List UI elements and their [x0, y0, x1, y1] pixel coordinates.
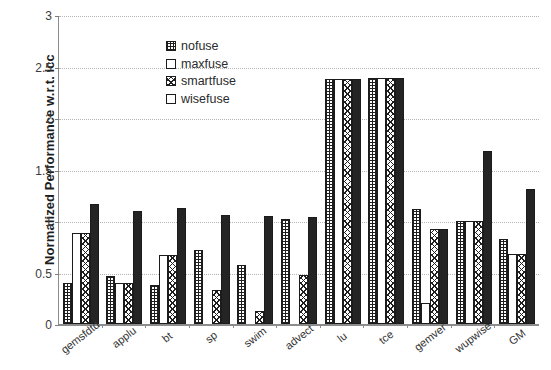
- x-label-cell: applu: [102, 325, 146, 370]
- x-tick-label-advect: advect: [282, 322, 315, 351]
- x-tick-label-bt: bt: [160, 329, 175, 344]
- bar-nofuse-wupwise: [456, 221, 465, 324]
- x-tick-label-swim: swim: [241, 325, 268, 350]
- bar-groups: [59, 16, 539, 324]
- x-label-cell: sp: [189, 325, 233, 370]
- bar-group-advect: [277, 16, 321, 324]
- bar-wisefuse-gemsfdtd: [90, 204, 99, 325]
- x-label-cell: bt: [145, 325, 189, 370]
- legend-item-maxfuse: maxfuse: [166, 58, 236, 71]
- bar-group-wupwise: [452, 16, 496, 324]
- y-axis-tick-labels: 00.511.522.53: [22, 0, 52, 370]
- bar-group-gemver: [408, 16, 452, 324]
- bar-wisefuse-bt: [177, 208, 186, 324]
- x-label-cell: lu: [320, 325, 364, 370]
- bar-smartfuse-advect: [299, 275, 308, 324]
- bar-wisefuse-gm: [526, 189, 535, 324]
- y-tick-label: 1: [26, 215, 52, 229]
- x-tick-label-wupwise: wupwise: [453, 319, 494, 354]
- y-tick-label: 0: [26, 318, 52, 332]
- bar-maxfuse-bt: [159, 255, 168, 324]
- y-tick-label: 0.5: [26, 267, 52, 281]
- bar-maxfuse-gemver: [421, 303, 430, 324]
- legend-item-wisefuse: wisefuse: [166, 93, 236, 106]
- bar-nofuse-advect: [281, 219, 290, 324]
- x-label-cell: advect: [277, 325, 321, 370]
- bar-smartfuse-gemver: [430, 229, 439, 324]
- bar-smartfuse-gm: [517, 254, 526, 324]
- bar-maxfuse-applu: [115, 283, 124, 324]
- legend-item-nofuse: nofuse: [166, 40, 236, 53]
- x-tick-label-lu: lu: [335, 330, 349, 345]
- legend-label-maxfuse: maxfuse: [181, 58, 228, 71]
- bar-maxfuse-tce: [377, 78, 386, 324]
- bar-wisefuse-applu: [133, 211, 142, 324]
- bar-smartfuse-applu: [124, 283, 133, 324]
- bar-group-tce: [364, 16, 408, 324]
- plot-area: nofusemaxfusesmartfusewisefuse: [58, 16, 539, 325]
- bar-smartfuse-wupwise: [474, 221, 483, 324]
- bar-wisefuse-wupwise: [483, 151, 492, 324]
- bar-group-lu: [321, 16, 365, 324]
- bar-maxfuse-lu: [334, 79, 343, 324]
- bar-wisefuse-sp: [221, 215, 230, 324]
- bar-group-applu: [103, 16, 147, 324]
- y-tick-label: 2: [26, 112, 52, 126]
- legend: nofusemaxfusesmartfusewisefuse: [166, 40, 236, 105]
- bar-nofuse-bt: [150, 285, 159, 324]
- x-label-cell: gemver: [408, 325, 452, 370]
- legend-item-smartfuse: smartfuse: [166, 75, 236, 88]
- bar-maxfuse-wupwise: [465, 221, 474, 324]
- y-tick-label: 3: [26, 9, 52, 23]
- bar-nofuse-applu: [106, 276, 115, 324]
- x-tick-label-gm: GM: [507, 327, 528, 347]
- bar-smartfuse-swim: [255, 311, 264, 324]
- bar-smartfuse-tce: [386, 78, 395, 324]
- x-label-cell: tce: [364, 325, 408, 370]
- bar-nofuse-gemver: [412, 209, 421, 324]
- x-label-cell: swim: [233, 325, 277, 370]
- x-tick-label-gemver: gemver: [412, 321, 448, 353]
- bar-maxfuse-gm: [508, 254, 517, 324]
- legend-swatch-nofuse: [166, 41, 176, 51]
- legend-label-wisefuse: wisefuse: [181, 93, 230, 106]
- bar-maxfuse-gemsfdtd: [72, 233, 81, 324]
- x-label-cell: GM: [495, 325, 539, 370]
- bar-wisefuse-gemver: [439, 229, 448, 324]
- y-tick-label: 2.5: [26, 61, 52, 75]
- bar-nofuse-tce: [368, 78, 377, 324]
- bar-group-swim: [234, 16, 278, 324]
- bar-wisefuse-advect: [308, 217, 317, 324]
- bar-smartfuse-bt: [168, 255, 177, 324]
- bar-nofuse-gm: [499, 239, 508, 324]
- x-label-cell: wupwise: [452, 325, 496, 370]
- bar-wisefuse-lu: [352, 79, 361, 324]
- bar-group-gemsfdtd: [59, 16, 103, 324]
- bar-nofuse-sp: [194, 250, 203, 324]
- bar-nofuse-gemsfdtd: [63, 283, 72, 324]
- bar-wisefuse-swim: [264, 216, 273, 324]
- x-axis-tick-labels: gemsfdtdapplubtspswimadvectlutcegemverwu…: [58, 325, 539, 370]
- y-tick-label: 1.5: [26, 164, 52, 178]
- bar-nofuse-lu: [325, 79, 334, 324]
- bar-group-gm: [495, 16, 539, 324]
- legend-swatch-wisefuse: [166, 94, 176, 104]
- bar-nofuse-swim: [237, 265, 246, 324]
- x-tick-label-tce: tce: [377, 328, 396, 346]
- legend-label-nofuse: nofuse: [181, 40, 219, 53]
- bar-smartfuse-sp: [212, 290, 221, 324]
- bar-chart: Normalized Performance w.r.t. icc 00.511…: [0, 0, 551, 370]
- x-label-cell: gemsfdtd: [58, 325, 102, 370]
- bar-smartfuse-lu: [343, 79, 352, 324]
- bar-smartfuse-gemsfdtd: [81, 233, 90, 324]
- bar-wisefuse-tce: [395, 78, 404, 324]
- legend-swatch-smartfuse: [166, 76, 176, 86]
- legend-swatch-maxfuse: [166, 59, 176, 69]
- x-tick-label-sp: sp: [203, 329, 220, 346]
- legend-label-smartfuse: smartfuse: [181, 75, 236, 88]
- x-tick-label-applu: applu: [109, 324, 138, 350]
